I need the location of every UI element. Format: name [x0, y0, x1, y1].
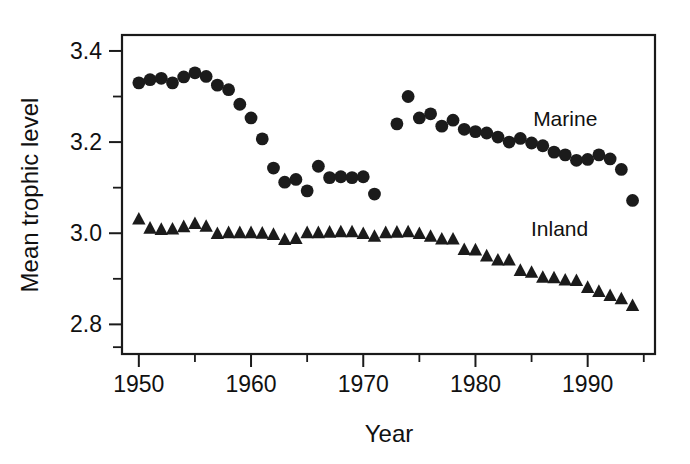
y-axis-ticks	[109, 51, 122, 347]
data-point-inland	[469, 243, 482, 256]
data-point-inland	[233, 226, 246, 239]
data-point-marine	[559, 148, 572, 161]
y-tick-label: 3.4	[70, 38, 102, 64]
data-point-inland	[480, 249, 493, 262]
data-point-marine	[200, 70, 213, 83]
data-point-inland	[278, 232, 291, 245]
series-labels: MarineInland	[531, 107, 597, 239]
data-point-marine	[155, 72, 168, 85]
data-point-inland	[222, 226, 235, 239]
data-point-inland	[289, 231, 302, 244]
data-point-inland	[132, 212, 145, 225]
data-point-inland	[368, 229, 381, 242]
data-point-marine	[604, 153, 617, 166]
data-point-inland	[155, 222, 168, 235]
x-tick-label: 1950	[113, 371, 164, 397]
data-point-marine	[144, 73, 157, 86]
data-point-marine	[548, 146, 561, 159]
data-point-marine	[132, 76, 145, 89]
data-point-marine	[222, 83, 235, 96]
data-point-marine	[469, 125, 482, 138]
series-marine-points	[132, 66, 639, 206]
data-point-inland	[603, 288, 616, 301]
data-point-inland	[424, 229, 437, 242]
data-point-inland	[244, 226, 257, 239]
data-point-inland	[323, 225, 336, 238]
data-point-marine	[368, 188, 381, 201]
data-point-inland	[502, 253, 515, 266]
x-axis-title: Year	[365, 420, 414, 447]
data-point-marine	[245, 112, 258, 125]
plot-frame-box	[122, 35, 655, 354]
data-point-inland	[211, 226, 224, 239]
data-point-inland	[334, 225, 347, 238]
y-axis-title: Mean trophic level	[16, 98, 43, 293]
data-point-marine	[503, 136, 516, 149]
data-point-marine	[233, 98, 246, 111]
data-point-marine	[312, 160, 325, 173]
y-tick-label: 3.0	[70, 220, 102, 246]
data-point-marine	[570, 154, 583, 167]
data-point-marine	[256, 133, 269, 146]
data-point-inland	[435, 232, 448, 245]
data-point-inland	[143, 221, 156, 234]
y-axis-tick-labels: 3.43.23.02.8	[70, 38, 102, 337]
x-axis-tick-labels: 19501960197019801990	[113, 371, 613, 397]
data-point-marine	[278, 176, 291, 189]
data-point-marine	[267, 162, 280, 175]
x-tick-label: 1960	[225, 371, 276, 397]
data-point-marine	[458, 123, 471, 136]
data-point-inland	[166, 222, 179, 235]
data-point-marine	[391, 117, 404, 130]
data-point-marine	[290, 173, 303, 186]
data-point-inland	[525, 265, 538, 278]
data-point-inland	[345, 225, 358, 238]
data-point-marine	[413, 112, 426, 125]
chart-figure: 19501960197019801990 3.43.23.02.8 Marine…	[0, 0, 690, 464]
plot-frame	[122, 35, 655, 354]
data-point-marine	[177, 71, 190, 84]
data-point-marine	[301, 184, 314, 197]
data-point-marine	[615, 163, 628, 176]
data-point-inland	[267, 227, 280, 240]
data-point-marine	[514, 132, 527, 145]
x-tick-label: 1970	[338, 371, 389, 397]
trophic-level-scatter-chart: 19501960197019801990 3.43.23.02.8 Marine…	[0, 0, 690, 464]
data-point-marine	[447, 114, 460, 127]
data-point-inland	[559, 273, 572, 286]
data-point-marine	[536, 139, 549, 152]
data-point-inland	[615, 292, 628, 305]
data-point-inland	[357, 226, 370, 239]
data-point-marine	[525, 137, 538, 150]
data-point-inland	[379, 226, 392, 239]
data-point-marine	[626, 194, 639, 207]
y-tick-label: 3.2	[70, 129, 102, 155]
data-point-inland	[446, 232, 459, 245]
data-point-marine	[492, 131, 505, 144]
data-point-marine	[402, 90, 415, 103]
data-point-marine	[581, 153, 594, 166]
x-tick-label: 1980	[450, 371, 501, 397]
data-point-marine	[435, 120, 448, 133]
series-label-marine: Marine	[533, 107, 597, 130]
data-point-inland	[256, 226, 269, 239]
data-point-marine	[592, 148, 605, 161]
data-point-marine	[211, 79, 224, 92]
data-point-marine	[334, 170, 347, 183]
data-point-inland	[592, 284, 605, 297]
data-point-inland	[413, 226, 426, 239]
data-point-marine	[357, 170, 370, 183]
data-point-marine	[424, 107, 437, 120]
data-point-marine	[480, 127, 493, 140]
data-point-inland	[390, 225, 403, 238]
data-point-inland	[570, 273, 583, 286]
data-point-inland	[491, 253, 504, 266]
data-point-inland	[177, 220, 190, 233]
x-axis-ticks	[139, 354, 644, 367]
data-point-marine	[166, 76, 179, 89]
data-point-inland	[401, 225, 414, 238]
data-point-inland	[626, 298, 639, 311]
data-point-marine	[189, 66, 202, 79]
data-point-inland	[312, 226, 325, 239]
data-point-inland	[547, 271, 560, 284]
